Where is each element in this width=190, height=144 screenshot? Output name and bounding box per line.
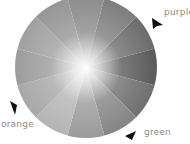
green-pointer-icon	[125, 131, 136, 140]
orange-pointer-icon	[10, 101, 17, 115]
label-orange: orange	[1, 120, 34, 129]
center-glow	[15, 0, 157, 138]
label-green: green	[144, 128, 171, 137]
label-purple: purple	[164, 8, 190, 17]
purple-pointer-icon	[152, 18, 163, 29]
